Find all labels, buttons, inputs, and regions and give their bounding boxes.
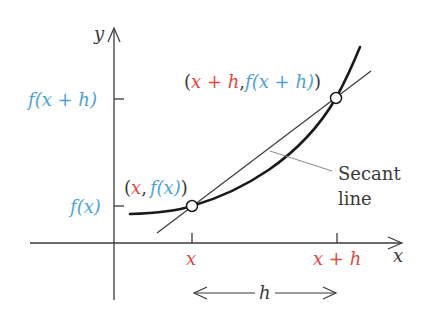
x-tick-label-right: x + h	[313, 248, 361, 269]
y-tick-label-lower: f(x)	[68, 196, 101, 217]
interval-label: h	[259, 282, 271, 303]
annotation-line: line	[338, 188, 372, 209]
x-axis-label: x	[393, 245, 403, 266]
x-tick-label-left: x	[186, 248, 196, 269]
point-upper	[331, 93, 342, 104]
annotation-secant: Secant	[338, 163, 401, 184]
point-lower-label: (x,f(x))	[124, 177, 188, 198]
y-tick-label-upper: f(x + h)	[26, 89, 97, 110]
point-upper-label: (x + h,f(x + h))	[184, 71, 321, 92]
y-axis-label: y	[93, 23, 105, 44]
point-lower	[187, 201, 198, 212]
secant-line-diagram: y x f(x + h) f(x) x x + h (x,f(x)) (x + …	[0, 0, 436, 322]
